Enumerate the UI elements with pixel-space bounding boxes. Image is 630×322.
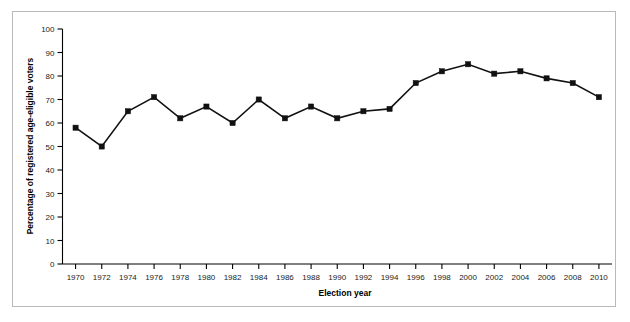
x-axis-tick-label: 1994	[381, 273, 399, 282]
y-axis-tick-label: 40	[46, 166, 55, 175]
data-point-marker: 1974: 65	[125, 109, 130, 114]
y-axis-tick-label: 80	[46, 72, 55, 81]
chart-plot-area: 0102030405060708090100 19701972197419761…	[0, 0, 630, 322]
x-axis-tick-label: 1974	[119, 273, 137, 282]
y-axis-tick-label: 10	[46, 237, 55, 246]
data-point-marker: 1990: 62	[335, 116, 340, 121]
data-point-marker: 1976: 71	[151, 95, 156, 100]
x-axis-tick-label: 1992	[355, 273, 373, 282]
x-axis-tick-label: 1980	[198, 273, 216, 282]
x-axis-tick-label: 2004	[512, 273, 530, 282]
x-axis-tick-label: 1986	[276, 273, 294, 282]
x-axis-tick-label: 1982	[224, 273, 242, 282]
line-chart-svg: 0102030405060708090100 19701972197419761…	[0, 0, 630, 322]
data-point-marker: 1994: 66	[387, 106, 392, 111]
y-axis: 0102030405060708090100	[41, 25, 62, 269]
x-axis-tick-label: 2008	[564, 273, 582, 282]
x-axis-tick-label: 2000	[459, 273, 477, 282]
data-point-marker: 2006: 79	[544, 76, 549, 81]
data-point-marker: 2010: 71	[596, 95, 601, 100]
x-axis-tick-label: 1988	[302, 273, 320, 282]
data-point-marker: 2004: 82	[518, 69, 523, 74]
x-axis-tick-label: 2010	[590, 273, 608, 282]
data-point-marker: 2000: 85	[465, 62, 470, 67]
x-axis-tick-label: 2002	[485, 273, 503, 282]
x-axis-tick-label: 1998	[433, 273, 451, 282]
y-axis-tick-label: 70	[46, 96, 55, 105]
data-point-marker: 1982: 60	[230, 120, 235, 125]
y-axis-tick-label: 60	[46, 119, 55, 128]
series-polyline	[76, 64, 599, 146]
data-point-marker: 1972: 50	[99, 144, 104, 149]
data-point-marker: 1980: 67	[204, 104, 209, 109]
y-axis-tick-label: 30	[46, 190, 55, 199]
y-axis-tick-label: 20	[46, 213, 55, 222]
x-axis-tick-label: 1990	[328, 273, 346, 282]
x-axis-tick-label: 1984	[250, 273, 268, 282]
data-point-marker: 1998: 82	[439, 69, 444, 74]
x-axis-tick-label: 2006	[538, 273, 556, 282]
data-point-marker: 1986: 62	[282, 116, 287, 121]
y-axis-title: Percentage of registered age-eligible vo…	[25, 57, 35, 234]
data-point-marker: 1984: 70	[256, 97, 261, 102]
x-axis-title: Election year	[319, 288, 373, 298]
data-series-voter-turnout: 1970: 581972: 501974: 651976: 711978: 62…	[73, 62, 602, 149]
data-point-marker: 2002: 81	[492, 71, 497, 76]
data-point-marker: 1978: 62	[178, 116, 183, 121]
x-axis-tick-label: 1996	[407, 273, 425, 282]
x-axis-tick-label: 1972	[93, 273, 111, 282]
data-point-marker: 1996: 77	[413, 80, 418, 85]
x-axis: 1970197219741976197819801982198419861988…	[63, 264, 613, 282]
y-axis-tick-label: 100	[41, 25, 55, 34]
x-axis-tick-label: 1978	[171, 273, 189, 282]
data-point-marker: 2008: 77	[570, 80, 575, 85]
y-axis-tick-label: 0	[50, 260, 55, 269]
chart-page: 0102030405060708090100 19701972197419761…	[0, 0, 630, 322]
x-axis-tick-label: 1976	[145, 273, 163, 282]
data-point-marker: 1970: 58	[73, 125, 78, 130]
y-axis-tick-label: 90	[46, 49, 55, 58]
data-point-marker: 1988: 67	[308, 104, 313, 109]
data-point-marker: 1992: 65	[361, 109, 366, 114]
x-axis-tick-label: 1970	[67, 273, 85, 282]
y-axis-tick-label: 50	[46, 143, 55, 152]
